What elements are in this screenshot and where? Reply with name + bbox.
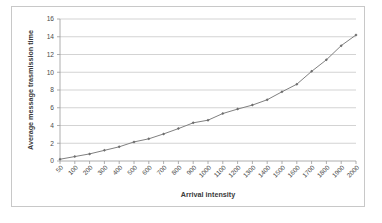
x-tick-label: 100: [67, 163, 80, 176]
x-tick-label: 1300: [242, 163, 257, 178]
x-tick-label: 900: [185, 163, 198, 176]
y-tick-label: 10: [47, 69, 55, 76]
y-axis-tick-labels: 16 14 12 10 8 6 4 2 0: [47, 15, 55, 164]
x-tick-label: 1700: [301, 163, 316, 178]
x-axis-title: Arrival intensity: [181, 190, 235, 199]
x-tick-label: 1800: [316, 163, 331, 178]
x-tick-label: 2000: [345, 163, 360, 178]
y-tick-label: 6: [50, 104, 54, 111]
x-tick-label: 50: [54, 163, 64, 173]
x-tick-label: 400: [111, 163, 124, 176]
x-tick-label: 1200: [227, 163, 242, 178]
x-tick-label: 1000: [197, 163, 212, 178]
x-tick-label: 600: [141, 163, 154, 176]
x-tick-label: 1100: [212, 163, 227, 178]
y-tick-label: 14: [47, 33, 55, 40]
x-tick-label: 500: [126, 163, 139, 176]
y-tick-label: 12: [47, 51, 55, 58]
y-tick-label: 0: [50, 157, 54, 164]
y-tick-label: 2: [50, 140, 54, 147]
x-tick-label: 700: [155, 163, 168, 176]
x-tick-label: 200: [81, 163, 94, 176]
y-tick-label: 4: [50, 122, 54, 129]
x-tick-label: 800: [170, 163, 183, 176]
chart-frame: 16 14 12 10 8 6 4 2 0 Average message tr…: [11, 6, 365, 207]
x-tick-label: 1900: [330, 163, 345, 178]
line-chart: 16 14 12 10 8 6 4 2 0 Average message tr…: [12, 7, 364, 206]
x-tick-label: 1600: [286, 163, 301, 178]
x-axis-ticks: [60, 161, 356, 164]
x-axis-tick-labels: 5010020030040050060070080090010001100120…: [54, 163, 360, 178]
y-tick-label: 16: [47, 15, 55, 22]
y-axis-ticks: [57, 19, 60, 161]
x-tick-label: 300: [96, 163, 109, 176]
y-axis-title: Average message trasmission time: [26, 30, 35, 150]
y-tick-label: 8: [50, 86, 54, 93]
x-tick-label: 1400: [256, 163, 271, 178]
x-tick-label: 1500: [271, 163, 286, 178]
